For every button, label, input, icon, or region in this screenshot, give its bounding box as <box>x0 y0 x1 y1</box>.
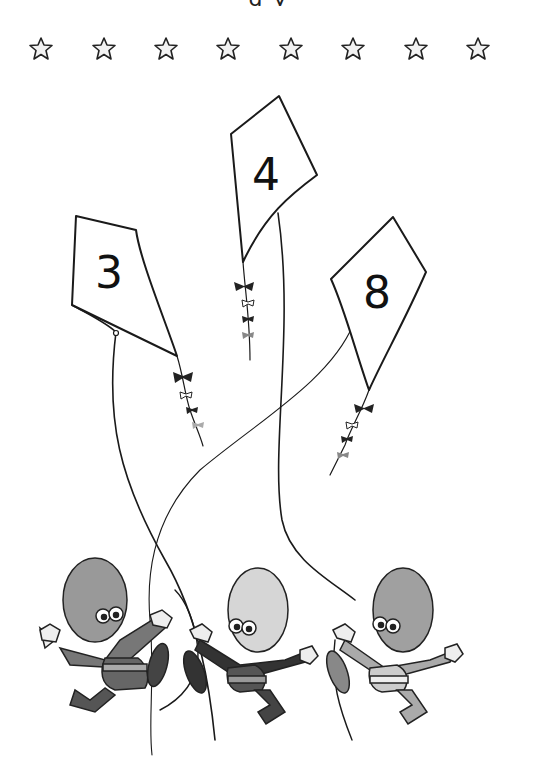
kite-3-frame <box>72 216 177 356</box>
character-middle <box>179 568 318 724</box>
character-left <box>40 558 172 712</box>
kite-3-number: 3 <box>95 247 123 298</box>
kite-scene: 3 4 8 <box>0 0 537 772</box>
kite-8-tail <box>330 390 369 475</box>
kite-8-number: 8 <box>363 267 391 318</box>
kite-4-tail <box>243 262 250 360</box>
kite-3-tail <box>177 356 203 446</box>
kite-4-number: 4 <box>252 149 280 200</box>
